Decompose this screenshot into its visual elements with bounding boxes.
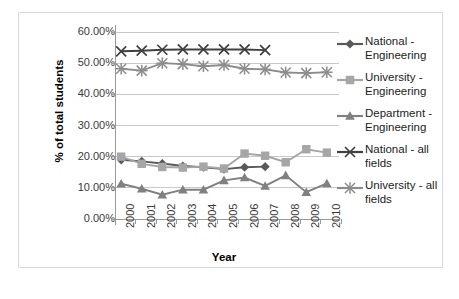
data-point-square: [158, 163, 166, 171]
data-point-asterisk: [136, 65, 148, 77]
data-point-asterisk: [344, 182, 356, 194]
legend-marker-x-icon: [337, 144, 363, 160]
data-point-asterisk: [157, 57, 169, 69]
x-axis-tick-label: 2009: [310, 204, 321, 228]
legend-label: University - Engineering: [365, 71, 426, 98]
legend-label: National - all fields: [365, 143, 429, 170]
series-3: [116, 44, 270, 56]
chart-frame: % of total students 0.00%10.00%20.00%30.…: [18, 12, 443, 268]
data-point-triangle: [281, 171, 291, 180]
x-axis-tick-label: 2007: [269, 204, 280, 228]
data-point-asterisk: [198, 60, 210, 72]
x-axis-tick-label: 2000: [125, 204, 136, 228]
data-point-asterisk: [259, 64, 271, 76]
data-point-asterisk: [115, 63, 127, 75]
data-point-triangle: [240, 173, 250, 182]
data-point-diamond: [240, 163, 249, 172]
x-axis-tick-label: 2003: [187, 204, 198, 228]
x-axis-title: Year: [115, 251, 333, 263]
data-point-asterisk: [280, 67, 292, 79]
data-point-square: [179, 163, 187, 171]
data-point-diamond: [345, 39, 354, 48]
data-point-square: [138, 160, 146, 168]
data-point-square: [117, 152, 125, 160]
data-point-asterisk: [177, 58, 189, 70]
legend-marker-asterisk-icon: [337, 180, 363, 196]
data-point-asterisk: [300, 67, 312, 79]
data-point-asterisk: [218, 59, 230, 71]
data-point-square: [240, 149, 248, 157]
x-axis-tick-label: 2002: [166, 204, 177, 228]
legend-item[interactable]: Department - Engineering: [337, 107, 459, 134]
data-point-diamond: [261, 162, 270, 171]
legend-item[interactable]: University - Engineering: [337, 71, 459, 98]
legend-marker-triangle-icon: [337, 108, 363, 124]
legend-label: Department - Engineering: [365, 107, 432, 134]
data-point-square: [281, 158, 289, 166]
data-point-asterisk: [321, 66, 333, 78]
data-point-asterisk: [239, 63, 251, 75]
data-point-square: [302, 145, 310, 153]
legend-marker-square-icon: [337, 72, 363, 88]
legend-item[interactable]: National - all fields: [337, 143, 459, 170]
series-2: [116, 171, 331, 199]
series-1: [117, 145, 331, 173]
x-axis-tick-label: 2008: [290, 204, 301, 228]
x-axis-tick-label: 2005: [228, 204, 239, 228]
data-point-square: [323, 148, 331, 156]
legend-label: National - Engineering: [365, 35, 426, 62]
data-point-square: [199, 162, 207, 170]
x-axis-tick-label: 2006: [249, 204, 260, 228]
series-4: [115, 57, 332, 79]
chart-container: % of total students 0.00%10.00%20.00%30.…: [0, 0, 459, 299]
data-point-triangle: [116, 179, 126, 188]
x-axis-tick-label: 2004: [207, 204, 218, 228]
legend-label: University - all fields: [365, 179, 437, 206]
legend-item[interactable]: University - all fields: [337, 179, 459, 206]
chart-legend: National - EngineeringUniversity - Engin…: [337, 35, 459, 215]
data-point-square: [220, 164, 228, 172]
legend-marker-diamond-icon: [337, 36, 363, 52]
data-point-square: [346, 76, 354, 84]
data-point-square: [261, 152, 269, 160]
data-point-triangle: [322, 179, 332, 188]
x-axis-tick-label: 2001: [146, 204, 157, 228]
legend-item[interactable]: National - Engineering: [337, 35, 459, 62]
